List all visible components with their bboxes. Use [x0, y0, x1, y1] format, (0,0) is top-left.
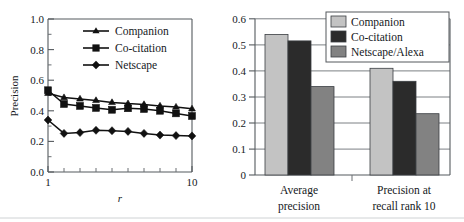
- bar-netscape-avg: [311, 87, 334, 175]
- legend-entry-cocitation-right: Co-citation: [331, 31, 403, 43]
- category-label-average-line2: precision: [278, 200, 320, 213]
- right-ytick-label-0.1: 0.1: [232, 143, 246, 155]
- left-ytick-label-0.6: 0.6: [30, 74, 44, 86]
- right-ytick-label-0.3: 0.3: [232, 91, 246, 103]
- category-label-rank10-line2: recall rank 10: [372, 200, 435, 212]
- right-ytick-label-0.6: 0.6: [232, 13, 246, 25]
- legend-label-netscape-right: Netscape/Alexa: [351, 46, 424, 59]
- legend-label-netscape-left: Netscape: [115, 59, 157, 72]
- legend-label-cocitation-left: Co-citation: [115, 42, 167, 54]
- bar-companion-rank10: [370, 68, 393, 175]
- right-chart-legend: Companion Co-citation Netscape/Alexa: [326, 12, 449, 62]
- left-xtick-label-10: 10: [187, 176, 199, 188]
- bar-cocitation-rank10: [393, 81, 416, 175]
- bar-cocitation-avg: [288, 41, 311, 175]
- bar-netscape-rank10: [416, 114, 439, 175]
- legend-swatch-netscape: [331, 46, 346, 57]
- right-ytick-label-0: 0: [241, 169, 247, 181]
- left-x-axis-label: r: [118, 192, 123, 204]
- square-marker-icon: [92, 44, 99, 51]
- legend-label-companion-left: Companion: [115, 25, 169, 38]
- left-ytick-label-0.8: 0.8: [30, 44, 44, 56]
- left-y-axis-label: Precision: [8, 75, 20, 116]
- right-ytick-label-0.5: 0.5: [232, 39, 246, 51]
- left-ytick-label-0.4: 0.4: [30, 105, 44, 117]
- legend-swatch-companion: [331, 16, 346, 27]
- bar-companion-avg: [265, 34, 288, 175]
- left-xtick-label-1: 1: [45, 176, 51, 188]
- category-label-rank10-line1: Precision at: [377, 184, 432, 196]
- right-ytick-label-0.2: 0.2: [232, 117, 246, 129]
- left-ytick-label-0.2: 0.2: [30, 135, 44, 147]
- right-ytick-label-0.4: 0.4: [232, 65, 246, 77]
- legend-swatch-cocitation: [331, 31, 346, 42]
- legend-label-companion-right: Companion: [351, 16, 405, 29]
- figure-svg: 1.0 0.8 0.6 0.4 0.2 0.0 1: [0, 0, 464, 222]
- figure-container: 1.0 0.8 0.6 0.4 0.2 0.0 1: [0, 0, 464, 222]
- legend-entry-companion-right: Companion: [331, 16, 405, 29]
- category-label-average-line1: Average: [280, 184, 318, 197]
- left-ytick-label-0.0: 0.0: [30, 166, 44, 178]
- left-ytick-label-1.0: 1.0: [30, 13, 44, 25]
- left-chart-legend: Companion Co-citation Netscape: [83, 25, 169, 72]
- legend-entry-netscape-right: Netscape/Alexa: [331, 46, 424, 59]
- legend-label-cocitation-right: Co-citation: [351, 31, 403, 43]
